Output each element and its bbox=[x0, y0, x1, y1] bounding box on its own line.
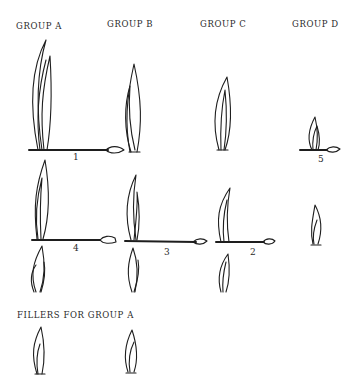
plant-diagram bbox=[0, 0, 357, 392]
plant-d1-icon bbox=[309, 117, 320, 150]
plant-c1-icon bbox=[215, 77, 231, 150]
plant-d2-icon bbox=[311, 205, 321, 245]
plant-b2-root-icon bbox=[128, 248, 138, 292]
match-head-5 bbox=[326, 147, 340, 152]
plant-c2-icon bbox=[218, 188, 230, 242]
plant-a2-icon bbox=[35, 160, 48, 239]
filler-plant-2-icon bbox=[125, 330, 136, 373]
plant-a1-icon bbox=[33, 40, 52, 150]
plant-a2-root-icon bbox=[32, 246, 45, 292]
plant-b2-icon bbox=[127, 175, 139, 240]
plant-c2-root-icon bbox=[219, 254, 229, 292]
match-head-4 bbox=[100, 236, 116, 243]
match-stick-3 bbox=[125, 241, 196, 242]
plant-b1-icon bbox=[126, 64, 141, 152]
filler-plant-1-icon bbox=[34, 327, 45, 374]
